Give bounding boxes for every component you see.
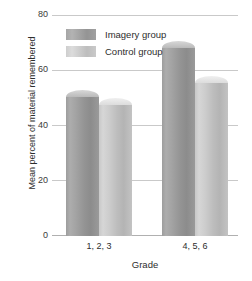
bar-body: [66, 97, 99, 236]
bar-control-grade123: [99, 98, 132, 236]
bar-imagery-grade123: [66, 90, 99, 236]
y-axis-tick-labels: 80 60 40 20 0: [14, 15, 48, 236]
gridline-60: [52, 70, 238, 71]
legend-label-imagery-group: Imagery group: [105, 29, 166, 40]
legend-swatch-icon: [66, 46, 96, 57]
x-tick-label-grade456: 4, 5, 6: [148, 241, 242, 251]
legend-label-control-group: Control group: [105, 46, 163, 57]
y-tick-label-0: 0: [18, 231, 48, 240]
y-tick-label-80: 80: [18, 10, 48, 19]
chart-legend: Imagery group Control group: [66, 26, 181, 60]
legend-item-imagery-group: Imagery group: [66, 26, 181, 43]
y-tick-label-40: 40: [18, 121, 48, 130]
bar-body: [195, 83, 228, 236]
bar-imagery-grade456: [162, 41, 195, 236]
x-tick-label-grade123: 1, 2, 3: [52, 241, 146, 251]
bar-control-grade456: [195, 76, 228, 236]
bar-body: [99, 105, 132, 236]
bar-chart: Mean percent of material remembered 80 6…: [0, 0, 252, 281]
x-axis-title: Grade: [52, 259, 238, 270]
y-tick-label-60: 60: [18, 65, 48, 74]
legend-swatch-icon: [66, 29, 96, 40]
gridline-80: [52, 15, 238, 16]
y-tick-label-20: 20: [18, 176, 48, 185]
bar-body: [162, 48, 195, 236]
legend-item-control-group: Control group: [66, 43, 181, 60]
